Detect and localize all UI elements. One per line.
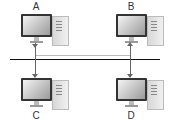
computer-c-icon: [21, 78, 69, 112]
arrow-down-icon: [32, 44, 38, 48]
arrow-down-icon: [32, 74, 38, 78]
arrow-down-icon: [127, 74, 133, 78]
computer-b-icon: [116, 14, 164, 48]
link-a-b: [35, 55, 131, 56]
connector-d-b: [130, 43, 131, 75]
computer-a-icon: [21, 14, 69, 48]
arrow-up-icon: [127, 42, 133, 46]
node-label-b: B: [125, 1, 137, 12]
computer-d-icon: [116, 78, 164, 112]
node-label-a: A: [30, 1, 42, 12]
bus-line: [10, 59, 160, 60]
